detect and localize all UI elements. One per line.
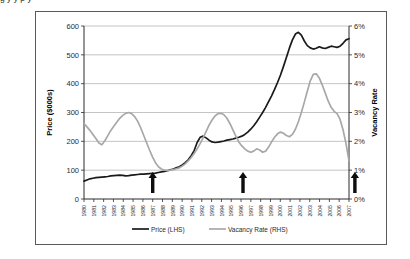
xtick-label: 1989 <box>170 205 176 217</box>
ytick-label: 600 <box>66 22 79 31</box>
y2tick-label: 5% <box>354 51 365 60</box>
xtick-label: 1985 <box>130 205 136 217</box>
xtick-label: 1982 <box>101 205 107 217</box>
xtick-label: 1993 <box>209 205 215 217</box>
xtick-label: 2001 <box>287 205 293 217</box>
legend-label-vacancy: Vacancy Rate (RHS) <box>228 226 288 234</box>
ytick-label: 300 <box>66 108 79 117</box>
xtick-label: 1988 <box>160 205 166 217</box>
arrow-2 <box>239 172 247 193</box>
xtick-label: 1997 <box>248 205 254 217</box>
xtick-label: 2007 <box>346 205 352 217</box>
arrow-3 <box>351 172 359 193</box>
y2tick-label: 3% <box>354 108 365 117</box>
ytick-label: 500 <box>66 51 79 60</box>
xtick-label: 1998 <box>258 205 264 217</box>
xtick-label: 1994 <box>219 205 225 217</box>
y2tick-label: 0% <box>354 195 365 204</box>
xtick-label: 2004 <box>317 205 323 217</box>
xtick-label: 1986 <box>140 205 146 217</box>
y2tick-label: 2% <box>354 137 365 146</box>
xtick-label: 2005 <box>327 205 333 217</box>
y2tick-label: 6% <box>354 22 365 31</box>
xtick-label: 1996 <box>238 205 244 217</box>
legend-label-price: Price (LHS) <box>151 226 185 234</box>
y2-axis-title: Vacancy Rate <box>370 88 379 136</box>
xtick-label: 1990 <box>179 205 185 217</box>
xtick-label: 1983 <box>111 205 117 217</box>
xtick-label: 1991 <box>189 205 195 217</box>
xtick-label: 2002 <box>297 205 303 217</box>
clipped-header-text: g y y p y <box>0 0 410 5</box>
ytick-label: 400 <box>66 79 79 88</box>
y2tick-label: 4% <box>354 79 365 88</box>
ytick-label: 100 <box>66 166 79 175</box>
chart-container: 01002003004005006000%1%2%3%4%5%6%1980198… <box>35 11 387 245</box>
xtick-label: 1981 <box>91 205 97 217</box>
xtick-label: 1999 <box>268 205 274 217</box>
y-axis-title: Price ($000s) <box>45 89 54 136</box>
xtick-label: 2003 <box>307 205 313 217</box>
xtick-label: 1995 <box>228 205 234 217</box>
ytick-label: 0 <box>75 195 79 204</box>
series-vacancy <box>84 74 349 171</box>
xtick-label: 1987 <box>150 205 156 217</box>
arrow-1 <box>149 172 157 193</box>
ytick-label: 200 <box>66 137 79 146</box>
xtick-label: 1992 <box>199 205 205 217</box>
xtick-label: 2000 <box>277 205 283 217</box>
xtick-label: 1980 <box>81 205 87 217</box>
xtick-label: 1984 <box>120 205 126 217</box>
xtick-label: 2006 <box>336 205 342 217</box>
line-chart: 01002003004005006000%1%2%3%4%5%6%1980198… <box>36 12 385 243</box>
